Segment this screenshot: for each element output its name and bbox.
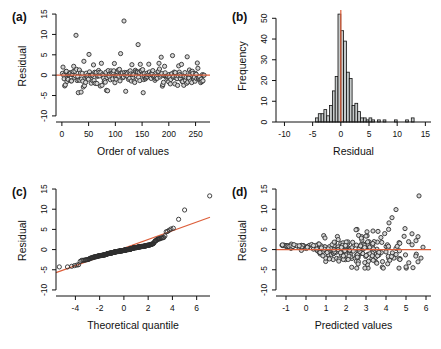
svg-text:15: 15 (421, 129, 431, 139)
panel-b: -10-505101501020304050ResidualFrequency(… (220, 0, 441, 175)
svg-text:5: 5 (39, 52, 49, 57)
panel-c: -4-20246-10-5051015Theoretical quantileR… (0, 175, 220, 349)
svg-text:3: 3 (364, 303, 369, 313)
svg-text:-5: -5 (259, 266, 269, 274)
svg-text:15: 15 (39, 9, 49, 19)
svg-text:Residual: Residual (333, 145, 374, 157)
svg-text:(b): (b) (232, 10, 247, 24)
svg-text:-10: -10 (39, 109, 49, 122)
svg-text:0: 0 (338, 129, 343, 139)
svg-text:10: 10 (392, 129, 402, 139)
svg-text:-10: -10 (259, 284, 269, 297)
svg-text:0: 0 (39, 73, 49, 78)
svg-text:10: 10 (39, 204, 49, 214)
svg-text:10: 10 (39, 29, 49, 39)
residual-diagnostics-figure: 050100150200250-10-5051015Order of value… (0, 0, 441, 349)
panel-a-svg: 050100150200250-10-5051015Order of value… (0, 0, 220, 175)
panel-a: 050100150200250-10-5051015Order of value… (0, 0, 220, 175)
svg-text:-10: -10 (39, 284, 49, 297)
svg-text:0: 0 (122, 303, 127, 313)
svg-text:40: 40 (259, 34, 269, 44)
svg-text:Residual: Residual (236, 220, 248, 261)
svg-text:Order of values: Order of values (97, 145, 169, 157)
svg-text:5: 5 (259, 227, 269, 232)
svg-text:0: 0 (259, 247, 269, 252)
svg-text:15: 15 (259, 184, 269, 194)
svg-text:5: 5 (367, 129, 372, 139)
svg-text:0: 0 (304, 303, 309, 313)
svg-text:100: 100 (108, 129, 122, 139)
svg-text:10: 10 (259, 204, 269, 214)
panel-c-svg: -4-20246-10-5051015Theoretical quantileR… (0, 175, 220, 349)
svg-text:5: 5 (404, 303, 409, 313)
svg-text:-5: -5 (309, 129, 317, 139)
svg-text:Frequency: Frequency (236, 40, 248, 90)
svg-text:Residual: Residual (16, 46, 28, 87)
svg-text:-1: -1 (282, 303, 290, 313)
svg-text:0: 0 (60, 129, 65, 139)
svg-text:-4: -4 (72, 303, 80, 313)
svg-text:Theoretical quantile: Theoretical quantile (87, 319, 179, 331)
svg-text:6: 6 (424, 303, 429, 313)
svg-text:0: 0 (259, 119, 269, 124)
svg-text:Residual: Residual (16, 220, 28, 261)
svg-text:2: 2 (146, 303, 151, 313)
svg-text:10: 10 (259, 96, 269, 106)
svg-text:4: 4 (384, 303, 389, 313)
svg-text:150: 150 (135, 129, 149, 139)
svg-text:(d): (d) (232, 185, 247, 199)
svg-text:(a): (a) (12, 10, 27, 24)
svg-text:1: 1 (324, 303, 329, 313)
panel-d-svg: -10123456-10-5051015Predicted valuesResi… (220, 175, 441, 349)
svg-text:30: 30 (259, 55, 269, 65)
svg-text:-2: -2 (96, 303, 104, 313)
svg-text:15: 15 (39, 184, 49, 194)
svg-text:6: 6 (194, 303, 199, 313)
svg-text:2: 2 (344, 303, 349, 313)
svg-text:20: 20 (259, 76, 269, 86)
svg-text:4: 4 (170, 303, 175, 313)
svg-text:0: 0 (39, 247, 49, 252)
svg-text:200: 200 (162, 129, 176, 139)
svg-text:Predicted values: Predicted values (315, 319, 393, 331)
svg-text:-5: -5 (39, 91, 49, 99)
svg-text:5: 5 (39, 227, 49, 232)
svg-text:50: 50 (259, 13, 269, 23)
panel-b-svg: -10-505101501020304050ResidualFrequency(… (220, 0, 441, 175)
panel-d: -10123456-10-5051015Predicted valuesResi… (220, 175, 441, 349)
svg-text:250: 250 (188, 129, 202, 139)
svg-text:(c): (c) (12, 185, 27, 199)
svg-text:-5: -5 (39, 266, 49, 274)
svg-text:50: 50 (84, 129, 94, 139)
svg-text:-10: -10 (278, 129, 291, 139)
